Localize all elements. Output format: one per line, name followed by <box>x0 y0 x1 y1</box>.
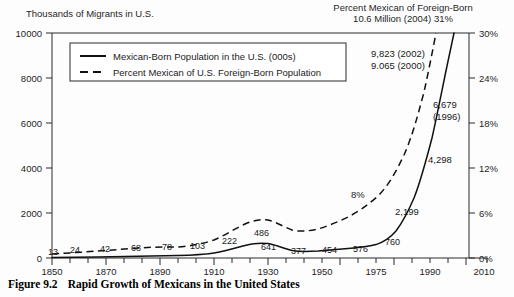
point-label-1996: 6,679 <box>433 99 457 110</box>
x-tick-label-1990: 1990 <box>419 266 440 275</box>
chart-plot: 10000 8000 6000 4000 2000 0 30% 24% 18% … <box>0 0 514 275</box>
point-label-1970: 760 <box>385 237 400 247</box>
left-tick-label-4000: 4000 <box>21 163 42 174</box>
right-tick-label-30: 30% <box>479 28 499 39</box>
point-label-1900: 103 <box>190 241 205 251</box>
legend-label-percent: Percent Mexican of U.S. Foreign-Born Pop… <box>113 67 321 78</box>
right-tick-label-0: 0% <box>479 253 493 264</box>
point-label-1880: 68 <box>131 243 141 253</box>
point-label-1960: 576 <box>353 244 368 254</box>
point-label-1940: 377 <box>291 246 306 256</box>
figure-caption-title: Rapid Growth of Mexicans in the United S… <box>68 278 300 290</box>
left-tick-label-6000: 6000 <box>21 118 42 129</box>
point-label-2002: 9,823 (2002) <box>371 48 425 59</box>
figure-caption-number: Figure 9.2 <box>8 278 58 290</box>
x-axis-ticks: 1850 1870 1890 1910 1930 1950 1975 1990 … <box>41 258 494 275</box>
point-label-1996-year: (1996) <box>433 111 460 122</box>
point-label-1860: 24 <box>70 245 80 255</box>
x-tick-label-1850: 1850 <box>41 266 62 275</box>
x-tick-label-1890: 1890 <box>149 266 170 275</box>
point-label-1850: 13 <box>48 247 58 257</box>
left-tick-label-10000: 10000 <box>16 28 42 39</box>
x-tick-label-1975: 1975 <box>365 266 386 275</box>
figure-caption: Figure 9.2Rapid Growth of Mexicans in th… <box>8 278 300 290</box>
point-label-1990: 4,298 <box>428 154 452 165</box>
point-label-percent-8: 8% <box>351 189 365 200</box>
x-axis-minor-ticks <box>70 258 487 263</box>
x-tick-label-1930: 1930 <box>257 266 278 275</box>
point-label-1930: 641 <box>261 242 276 252</box>
x-tick-label-1950: 1950 <box>311 266 332 275</box>
right-tick-label-18: 18% <box>479 118 499 129</box>
right-tick-label-6: 6% <box>479 208 493 219</box>
right-tick-label-24: 24% <box>479 73 499 84</box>
point-label-1950: 454 <box>322 245 337 255</box>
right-tick-label-12: 12% <box>479 163 499 174</box>
point-label-1920: 486 <box>254 228 269 238</box>
figure-container: Thousands of Migrants in U.S. Percent Me… <box>0 0 514 297</box>
point-label-1890: 78 <box>162 242 172 252</box>
point-label-1980: 2,199 <box>395 206 419 217</box>
point-label-2000: 9.065 (2000) <box>371 60 425 71</box>
point-label-1910: 222 <box>222 236 237 246</box>
point-label-1870: 42 <box>100 244 110 254</box>
left-y-axis-ticks: 10000 8000 6000 4000 2000 0 <box>16 28 52 264</box>
x-tick-label-1870: 1870 <box>95 266 116 275</box>
left-tick-label-8000: 8000 <box>21 73 42 84</box>
x-tick-label-2010: 2010 <box>473 266 494 275</box>
chart-legend: Mexican-Born Population in the U.S. (000… <box>70 43 346 81</box>
left-tick-label-0: 0 <box>37 253 42 264</box>
legend-label-population: Mexican-Born Population in the U.S. (000… <box>113 51 296 62</box>
left-tick-label-2000: 2000 <box>21 208 42 219</box>
right-y-axis-ticks: 30% 24% 18% 12% 6% 0% <box>469 28 499 264</box>
x-tick-label-1910: 1910 <box>203 266 224 275</box>
